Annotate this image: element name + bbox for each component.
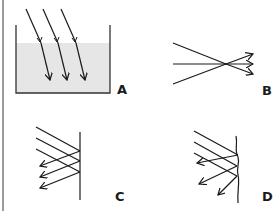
panel-label-b: B xyxy=(262,83,272,98)
panel-label-c: C xyxy=(115,189,125,204)
panel-d-diffuse-reflection xyxy=(194,131,239,203)
panel-label-a: A xyxy=(117,82,127,97)
panel-label-d: D xyxy=(262,189,273,204)
panel-a-refraction xyxy=(16,9,110,93)
optics-diagram xyxy=(0,0,278,211)
panel-b-focus xyxy=(173,43,253,84)
panel-c-regular-reflection xyxy=(36,127,80,200)
